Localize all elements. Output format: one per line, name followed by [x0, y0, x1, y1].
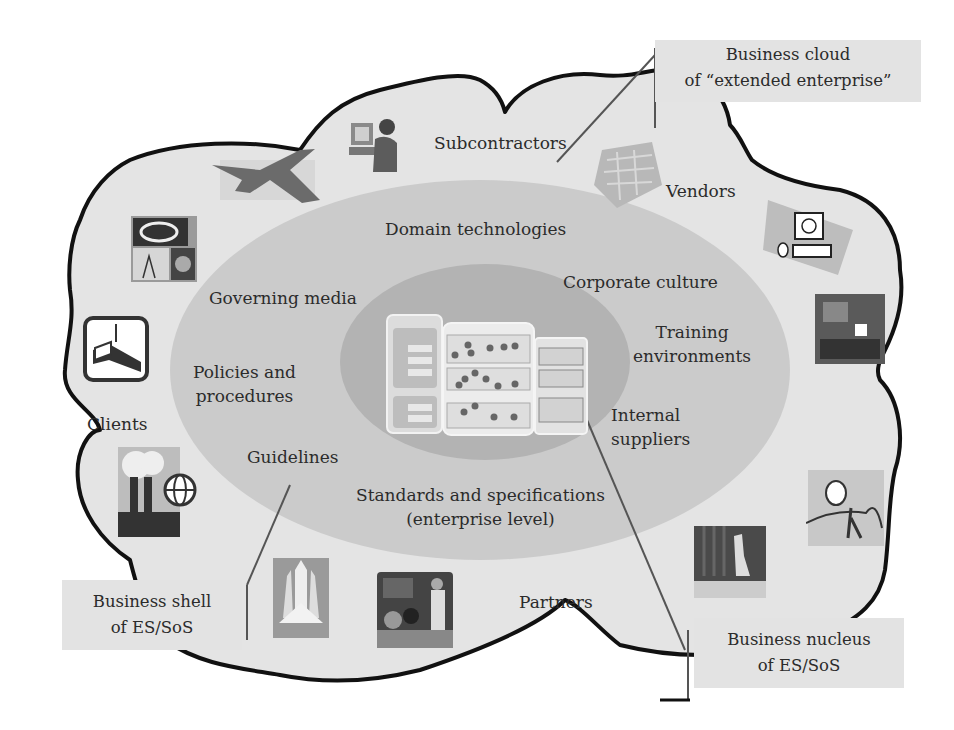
- label-subcontractors: Subcontractors: [434, 133, 567, 153]
- construction-beam-icon: [83, 316, 149, 382]
- policies-line-1: Policies and: [193, 362, 296, 382]
- callout-business-shell: Business shell of ES/SoS: [62, 580, 242, 650]
- training-line-1: Training: [633, 322, 751, 342]
- standards-line-1: Standards and specifications: [356, 485, 605, 505]
- space-shuttle-icon: [273, 558, 329, 638]
- label-vendors: Vendors: [666, 181, 736, 201]
- label-governing-media: Governing media: [209, 288, 357, 308]
- policies-line-2: procedures: [193, 386, 296, 406]
- callout-business-nucleus: Business nucleus of ES/SoS: [694, 618, 904, 688]
- training-line-2: environments: [633, 346, 751, 366]
- circuit-board-icon: [592, 140, 664, 210]
- creative-figure-icon: [806, 468, 886, 548]
- stage-presentation-icon: [694, 526, 766, 598]
- callout-nucleus-line-1: Business nucleus: [694, 630, 904, 650]
- label-training-environments: Training environments: [633, 322, 751, 366]
- teacher-students-icon: [377, 572, 453, 648]
- person-at-computer-icon: [347, 117, 407, 177]
- callout-business-cloud: Business cloud of “extended enterprise”: [655, 40, 921, 102]
- internal-line-1: Internal: [611, 405, 690, 425]
- label-standards-specifications: Standards and specifications (enterprise…: [356, 485, 605, 529]
- enterprise-diagram: Subcontractors Vendors Clients Partners …: [0, 0, 954, 730]
- label-internal-suppliers: Internal suppliers: [611, 405, 690, 449]
- callout-shell-line-1: Business shell: [62, 592, 242, 612]
- fighter-jet-icon: [210, 145, 330, 210]
- label-guidelines: Guidelines: [247, 447, 339, 467]
- internal-line-2: suppliers: [611, 429, 690, 449]
- standards-line-2: (enterprise level): [356, 509, 605, 529]
- callout-shell-line-2: of ES/SoS: [62, 618, 242, 638]
- factory-globe-icon: [118, 447, 198, 537]
- label-domain-technologies: Domain technologies: [385, 219, 566, 239]
- label-clients: Clients: [87, 414, 147, 434]
- label-partners: Partners: [519, 592, 593, 612]
- callout-cloud-line-2: of “extended enterprise”: [655, 71, 921, 91]
- astronomy-icon: [131, 216, 197, 282]
- label-corporate-culture: Corporate culture: [563, 272, 718, 292]
- callout-nucleus-line-2: of ES/SoS: [694, 656, 904, 676]
- computer-network-icon: [763, 195, 863, 275]
- team-meeting-photo-icon: [815, 294, 885, 364]
- label-policies-procedures: Policies and procedures: [193, 362, 296, 406]
- callout-cloud-line-1: Business cloud: [655, 45, 921, 65]
